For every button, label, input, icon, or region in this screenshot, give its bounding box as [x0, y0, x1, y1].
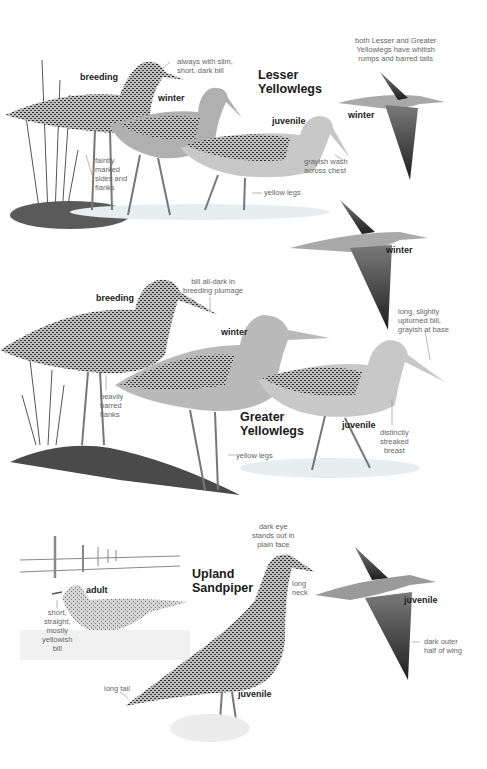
plumage-label-adult: adult: [86, 585, 108, 595]
annotation-breast: distinctly streaked breast: [380, 428, 409, 455]
greater-juvenile-bird: [258, 340, 445, 470]
plumage-label-flight-winter-2: winter: [386, 245, 413, 255]
annotation-rump-note: both Lesser and Greater Yellowlegs have …: [355, 36, 436, 63]
annotation-legs: yellow legs: [236, 451, 273, 460]
annotation-legs: yellow legs: [264, 188, 301, 197]
annotation-eye: dark eye stands out in plain face: [252, 522, 295, 549]
fence-icon: [20, 536, 180, 578]
grass-tuft-icon: [25, 60, 78, 215]
annotation-flanks: heavily barred flanks: [100, 392, 123, 419]
plumage-label-winter: winter: [221, 327, 248, 337]
annotation-bill-breeding: bill all-dark in breeding plumage: [183, 277, 243, 295]
annotation-sides: faintly marked sides and flanks: [95, 156, 127, 192]
species-title-lesser-yellowlegs: Lesser Yellowlegs: [258, 68, 322, 96]
annotation-bill: short, straight, mostly yellowish bill: [42, 608, 72, 653]
plumage-label-juvenile: juvenile: [272, 116, 306, 126]
annotation-neck: long neck: [292, 579, 308, 597]
annotation-chest: grayish wash across chest: [304, 157, 348, 175]
plumage-label-juvenile: juvenile: [238, 689, 272, 699]
plumage-label-flight-winter: winter: [348, 110, 375, 120]
illustration-plate: [0, 0, 487, 769]
lesser-flight-bird-1: [338, 72, 445, 180]
plumage-label-breeding: breeding: [96, 293, 134, 303]
annotation-tail: long tail: [104, 684, 130, 693]
species-title-upland-sandpiper: Upland Sandpiper: [192, 567, 253, 595]
plumage-label-flight-juvenile: juvenile: [404, 595, 438, 605]
annotation-bill: always with slim, short, dark bill: [177, 57, 233, 75]
plumage-label-breeding: breeding: [80, 72, 118, 82]
greater-yellowlegs-group: [0, 280, 445, 495]
annotation-wing: dark outer half of wing: [424, 637, 462, 655]
annotation-bill: long, slightly upturned bill, grayish at…: [398, 307, 449, 334]
plumage-label-winter: winter: [158, 93, 185, 103]
upland-flight-bird: [315, 547, 436, 680]
plumage-label-juvenile: juvenile: [342, 420, 376, 430]
species-title-greater-yellowlegs: Greater Yellowlegs: [240, 410, 304, 438]
